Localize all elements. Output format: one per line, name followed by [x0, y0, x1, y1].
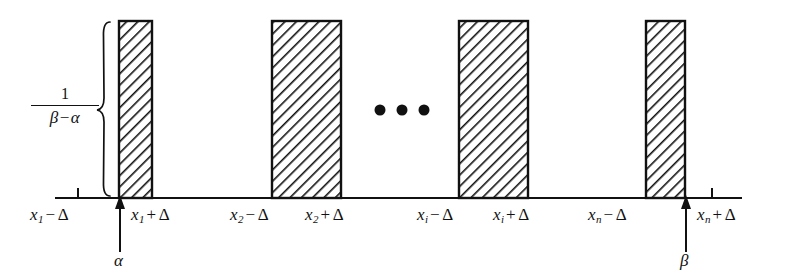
variable-x: x — [493, 205, 501, 224]
beta-arrow — [681, 195, 691, 252]
figure-canvas — [0, 0, 792, 275]
delta-symbol: Δ — [159, 205, 170, 224]
label-x1-minus-delta: x1−Δ — [30, 205, 69, 225]
fraction-denominator: β−α — [28, 108, 102, 128]
alpha-arrow — [115, 195, 125, 252]
delta-symbol: Δ — [616, 205, 627, 224]
fraction-numerator: 1 — [28, 86, 102, 104]
delta-symbol: Δ — [518, 205, 529, 224]
alpha-label: α — [114, 251, 123, 271]
beta-symbol: β — [50, 108, 59, 127]
variable-x: x — [131, 205, 139, 224]
label-xi-minus-delta: xi−Δ — [417, 205, 454, 225]
ellipsis-dot — [419, 105, 430, 116]
operator: + — [145, 205, 159, 224]
variable-x: x — [417, 205, 425, 224]
uniform-density-histogram-figure: 1 β−α x1−Δ x1+Δ x2−Δ x2+Δ xi−Δ xi+Δ xn−Δ… — [0, 0, 792, 275]
bar-3 — [459, 21, 528, 198]
subscript: 2 — [238, 213, 244, 225]
label-xn-plus-delta: xn+Δ — [697, 205, 736, 225]
density-value-label: 1 β−α — [28, 86, 102, 127]
delta-symbol: Δ — [442, 205, 453, 224]
beta-label: β — [680, 251, 688, 271]
delta-symbol: Δ — [258, 205, 269, 224]
operator: + — [319, 205, 333, 224]
ellipsis-dot — [397, 105, 408, 116]
label-xn-minus-delta: xn−Δ — [588, 205, 627, 225]
operator: + — [504, 205, 518, 224]
horizontal-axis — [55, 188, 742, 198]
label-xi-plus-delta: xi+Δ — [493, 205, 530, 225]
label-x2-minus-delta: x2−Δ — [230, 205, 269, 225]
bar-1 — [119, 21, 152, 198]
label-x1-plus-delta: x1+Δ — [131, 205, 170, 225]
variable-x: x — [305, 205, 313, 224]
delta-symbol: Δ — [333, 205, 344, 224]
label-x2-plus-delta: x2+Δ — [305, 205, 344, 225]
delta-symbol: Δ — [725, 205, 736, 224]
subscript: 1 — [139, 213, 145, 225]
subscript: 1 — [38, 213, 44, 225]
variable-x: x — [30, 205, 38, 224]
operator: − — [44, 205, 58, 224]
ellipsis-dot — [375, 105, 386, 116]
bar-4 — [646, 21, 685, 198]
variable-x: x — [697, 205, 705, 224]
subscript: 2 — [313, 213, 319, 225]
operator: − — [244, 205, 258, 224]
operator: − — [602, 205, 616, 224]
minus-operator: − — [59, 108, 71, 127]
bar-2 — [272, 21, 341, 198]
delta-symbol: Δ — [58, 205, 69, 224]
operator: − — [428, 205, 442, 224]
operator: + — [711, 205, 725, 224]
ellipsis-dots — [375, 105, 430, 116]
variable-x: x — [230, 205, 238, 224]
fraction-bar — [31, 105, 99, 106]
subscript: n — [705, 213, 711, 225]
alpha-symbol: α — [71, 108, 80, 127]
subscript: n — [596, 213, 602, 225]
variable-x: x — [588, 205, 596, 224]
